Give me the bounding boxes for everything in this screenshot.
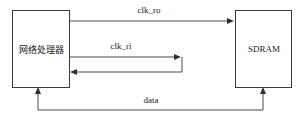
- edge-label-clk-ri: clk_ri: [111, 41, 132, 51]
- diagram-svg: clk_ro clk_ri data 网络处理器 SDRAM: [0, 0, 300, 119]
- edge-clk-ri: clk_ri: [70, 41, 182, 75]
- edge-label-clk-ro: clk_ro: [138, 5, 161, 15]
- network-processor-label: 网络处理器: [19, 44, 64, 55]
- clk-ri-arrowhead-icon: [174, 54, 181, 60]
- clk-ri-return-arrowhead-icon: [70, 69, 77, 75]
- data-left-arrowhead-icon: [35, 87, 41, 94]
- node-network-processor: 网络处理器: [13, 11, 70, 88]
- edge-clk-ro: clk_ro: [70, 5, 234, 24]
- edge-label-data: data: [144, 95, 159, 105]
- clk-ri-return-line: [73, 57, 182, 72]
- node-sdram: SDRAM: [236, 11, 292, 88]
- sdram-label: SDRAM: [248, 44, 280, 54]
- data-right-arrowhead-icon: [260, 87, 266, 94]
- clk-ro-arrowhead-icon: [227, 18, 234, 24]
- block-diagram-canvas: clk_ro clk_ri data 网络处理器 SDRAM: [0, 0, 300, 119]
- edge-data: data: [35, 87, 266, 110]
